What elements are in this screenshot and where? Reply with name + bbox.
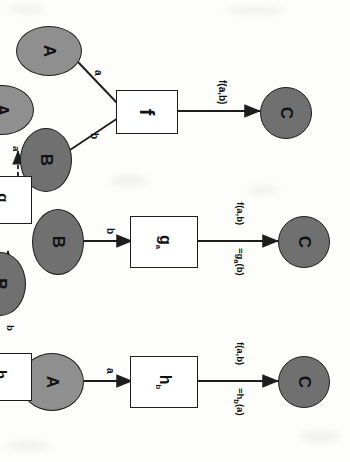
node-ga-box-curry: ga (0, 176, 32, 224)
node-label-h: hb (154, 375, 174, 389)
edge-A-to-f (78, 62, 118, 104)
edge-label-b-panel-g: b (105, 228, 116, 234)
node-B-panel-g: B (32, 209, 84, 275)
edge-label-a-panel-h: a (105, 368, 116, 374)
node-label-B: B (48, 236, 68, 248)
edge-label-fab-panel-g: f(a,b) (235, 202, 246, 225)
node-label-h: hb (0, 370, 10, 384)
node-label-C: C (294, 376, 314, 388)
node-label-C: C (294, 236, 314, 248)
node-C-panel-h: C (278, 356, 330, 408)
edge-label-eq-hb-panel-h: =hb(a) (232, 388, 246, 416)
edge-label-fab-panel-h: f(a,b) (235, 342, 246, 365)
node-label-B: B (36, 154, 56, 166)
node-label-C: C (276, 107, 296, 119)
node-f-box: f (116, 90, 178, 134)
node-label-f: f (136, 109, 159, 116)
edge-label-fab-panel-f: f(a,b) (217, 80, 228, 104)
node-A-panel-f: A (16, 26, 82, 76)
node-C-panel-f: C (260, 87, 312, 139)
edge-label-b-panel-f: b (89, 133, 100, 139)
diagram-page: A B f C a b f(a,b) B ga C b f(a,b) =ga(b… (0, 0, 350, 462)
node-label-B: B (0, 278, 9, 290)
node-label-A: A (0, 104, 11, 116)
edge-label-b-curry-h: b (5, 325, 16, 331)
figure-root: A B f C a b f(a,b) B ga C b f(a,b) =ga(b… (0, 0, 350, 462)
node-label-A: A (39, 45, 59, 57)
node-hb-box: hb (130, 356, 198, 408)
node-label-g: ga (0, 193, 12, 206)
node-label-g: ga (154, 235, 174, 249)
node-C-panel-g: C (278, 216, 330, 268)
edge-label-eq-ga-panel-g: =ga(b) (232, 248, 246, 276)
edge-label-a-curry-g: a (11, 146, 22, 151)
node-label-A: A (42, 376, 62, 388)
node-hb-box-curry: hb (0, 353, 32, 401)
node-ga-box: ga (130, 216, 198, 268)
edge-label-a-panel-f: a (93, 70, 104, 76)
